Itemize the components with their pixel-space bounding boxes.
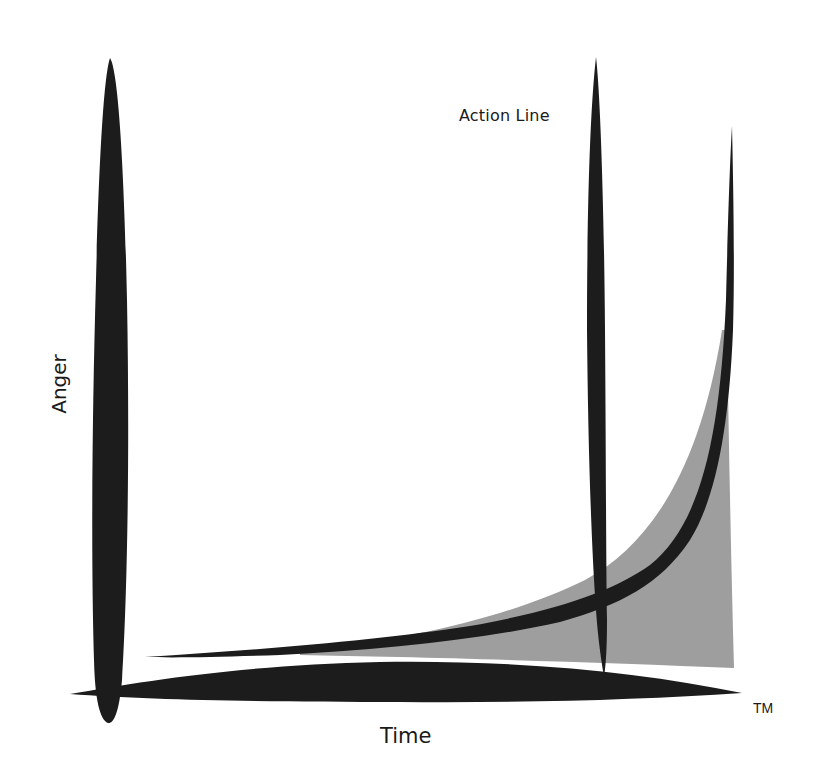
y-axis-stroke bbox=[92, 58, 128, 723]
anger-curve bbox=[145, 126, 734, 657]
action-line-label: Action Line bbox=[459, 106, 550, 125]
trademark-label: TM bbox=[753, 700, 773, 716]
x-axis-stroke bbox=[70, 662, 742, 702]
y-axis-label: Anger bbox=[47, 353, 71, 415]
x-axis-label: Time bbox=[380, 724, 431, 748]
anger-time-diagram bbox=[0, 0, 816, 781]
